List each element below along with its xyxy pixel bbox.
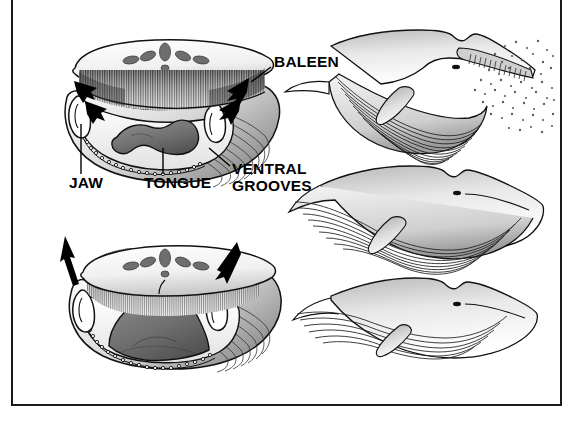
figure-page: BALEEN JAW TONGUE VENTRALGROOVES bbox=[0, 0, 573, 421]
whale-lunge-gulping bbox=[285, 30, 555, 165]
whale-3-eye bbox=[453, 302, 461, 306]
whale-1-upper-body bbox=[331, 30, 535, 84]
figure-frame: BALEEN JAW TONGUE VENTRALGROOVES bbox=[11, 0, 562, 406]
label-ventral-grooves: VENTRALGROOVES bbox=[232, 160, 312, 194]
label-baleen: BALEEN bbox=[274, 54, 339, 69]
label-ventral-line2: GROOVES bbox=[232, 177, 312, 194]
whale-2-eye bbox=[453, 191, 461, 195]
whale-1-lower-jaw-tip bbox=[285, 81, 329, 94]
whale-pouch-full bbox=[289, 166, 544, 274]
whale-3-body bbox=[331, 278, 537, 358]
label-ventral-line1: VENTRAL bbox=[232, 160, 307, 177]
label-tongue: TONGUE bbox=[144, 175, 211, 190]
whale-1-eye bbox=[452, 65, 460, 69]
outflow-arrow-left bbox=[60, 236, 79, 286]
whale-pouch-emptied bbox=[293, 278, 537, 359]
label-jaw: JAW bbox=[69, 175, 103, 190]
mouth-closing-cross-section bbox=[60, 236, 281, 372]
